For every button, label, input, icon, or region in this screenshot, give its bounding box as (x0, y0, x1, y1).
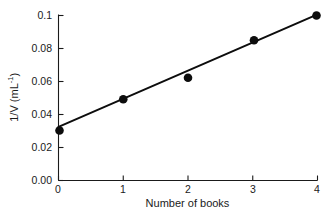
data-point (312, 11, 321, 20)
data-point (119, 95, 128, 104)
y-axis-title: 1/V (mL-1) (7, 73, 20, 122)
y-axis-title-main: 1/V (mL (7, 83, 19, 122)
trend-line (59, 14, 318, 127)
x-tick-label-3: 3 (250, 184, 256, 195)
chart-figure: 0.1 0.08 0.06 0.04 0.02 0.00 0 1 2 3 4 N… (0, 0, 331, 219)
y-axis-title-wrapper: 1/V (mL-1) (4, 0, 22, 195)
x-axis-title: Number of books (58, 198, 317, 209)
x-tick-label-1: 1 (120, 184, 126, 195)
y-axis-title-tail: ) (7, 73, 19, 77)
x-tick-label-4: 4 (314, 184, 320, 195)
data-point (184, 74, 193, 83)
x-tick-label-2: 2 (185, 184, 191, 195)
y-axis-title-exponent: -1 (6, 77, 15, 84)
data-point (55, 126, 64, 135)
data-point (250, 36, 259, 45)
x-tick-label-0: 0 (55, 184, 61, 195)
